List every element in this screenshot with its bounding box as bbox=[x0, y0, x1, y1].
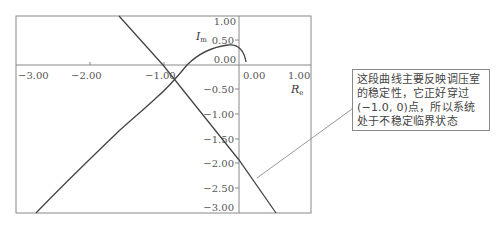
y-tick-label: −2.00 bbox=[203, 158, 234, 169]
plot-frame bbox=[16, 16, 311, 213]
x-tick-label: 1.00 bbox=[288, 70, 310, 81]
y-tick-label: −1.50 bbox=[203, 134, 234, 145]
y-tick-label: 1.00 bbox=[214, 16, 236, 27]
y-tick-label: −3.00 bbox=[203, 202, 234, 213]
y-tick-label: −1.00 bbox=[203, 109, 234, 120]
x-tick-label: −2.00 bbox=[71, 70, 102, 81]
y-tick-label: 0.00 bbox=[214, 54, 236, 65]
x-tick-labels: −3.00 −2.00 −1.00 0.00 1.00 bbox=[18, 70, 310, 81]
callout-text: 这段曲线主要反映调压室的稳定性，它正好穿过(−1.0, 0)点，所以系统处于不稳… bbox=[357, 73, 480, 128]
x-axis-label: Re bbox=[290, 83, 303, 97]
descending-line bbox=[119, 16, 276, 213]
annotation-callout: 这段曲线主要反映调压室的稳定性，它正好穿过(−1.0, 0)点，所以系统处于不稳… bbox=[352, 69, 490, 131]
x-tick-label: 0.00 bbox=[243, 70, 265, 81]
callout-leader-line bbox=[257, 109, 352, 178]
y-tick-label: −2.50 bbox=[203, 183, 234, 194]
y-tick-label: −0.50 bbox=[203, 84, 234, 95]
x-tick-label: −3.00 bbox=[18, 70, 49, 81]
y-axis-label: Im bbox=[195, 30, 207, 44]
